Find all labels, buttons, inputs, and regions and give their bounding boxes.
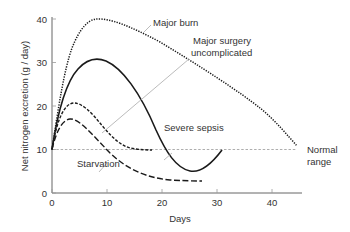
y-tick-label: 0 <box>42 188 47 199</box>
y-tick-label: 30 <box>36 57 47 68</box>
x-tick-label: 0 <box>49 197 54 208</box>
starvation-label: Starvation <box>77 158 120 169</box>
x-tick-label: 40 <box>267 197 278 208</box>
annotations: Major burn Major surgery uncomplicated S… <box>77 17 338 169</box>
major-surgery-curve <box>52 103 152 150</box>
major-surgery-label-line1: Major surgery <box>193 35 251 46</box>
normal-range-label-line2: range <box>307 156 331 167</box>
severe-sepsis-curve <box>52 59 222 171</box>
major-burn-leader <box>143 25 151 33</box>
annotation-leaders <box>99 25 189 172</box>
y-axis-title: Net nitrogen excretion (g / day) <box>19 41 30 171</box>
severe-sepsis-label: Severe sepsis <box>164 122 224 133</box>
x-tick-label: 30 <box>212 197 223 208</box>
y-tick-label: 20 <box>36 101 47 112</box>
major-burn-label: Major burn <box>153 17 198 28</box>
normal-range-label-line1: Normal <box>307 144 338 155</box>
x-tick-label: 10 <box>102 197 113 208</box>
y-ticks <box>52 19 56 193</box>
x-tick-label: 20 <box>157 197 168 208</box>
x-ticks <box>52 189 272 193</box>
y-tick-label: 40 <box>36 14 47 25</box>
nitrogen-excretion-chart: 0 10 20 30 40 0 10 20 30 40 Days Net nit… <box>0 0 350 232</box>
x-axis-title: Days <box>169 213 191 224</box>
major-surgery-label-line2: uncomplicated <box>191 47 252 58</box>
series-curves <box>52 19 297 181</box>
axes: 0 10 20 30 40 0 10 20 30 40 Days Net nit… <box>19 14 302 225</box>
y-tick-label: 10 <box>36 144 47 155</box>
